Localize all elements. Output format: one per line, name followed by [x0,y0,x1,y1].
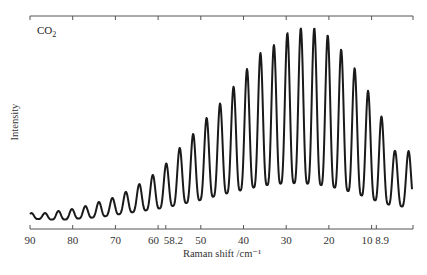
top-axis [30,16,413,20]
x-axis: 9080706058.250403020108.9 [25,225,414,246]
x-tick-label: 40 [238,234,250,246]
x-tick-label: 70 [110,234,122,246]
x-tick-label: 30 [281,234,293,246]
x-tick-label: 10 [362,234,374,246]
x-tick-label: 80 [67,234,79,246]
molecule-label: CO2 [37,24,56,39]
y-axis-label: Intensity [9,103,20,140]
x-tick-label: 20 [323,234,335,246]
x-tick-label: 8.9 [375,234,389,246]
x-tick-label: 90 [25,234,37,246]
x-tick-label: 58.2 [164,234,183,246]
spectrum-line [30,29,412,220]
x-axis-label: Raman shift /cm⁻¹ [183,248,261,259]
x-tick-label: 50 [195,234,207,246]
raman-spectrum-chart: 9080706058.250403020108.9 CO2 Intensity … [0,0,427,275]
x-tick-label: 60 [148,234,160,246]
